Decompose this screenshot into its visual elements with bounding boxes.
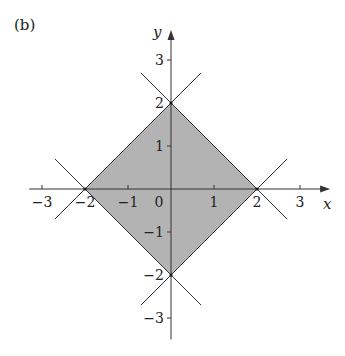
vertex-dot [169, 273, 172, 276]
x-tick-label: 2 [253, 194, 262, 210]
y-axis-label: y [152, 23, 162, 41]
panel-label: (b) [14, 16, 35, 34]
x-tick-label: −1 [118, 194, 139, 210]
x-tick-label: −3 [32, 194, 53, 210]
y-tick-label: −3 [143, 310, 164, 326]
x-tick-label: −2 [75, 194, 96, 210]
diamond-region-plot: (b) −3−113−22031−1−32−2 x y [0, 0, 345, 356]
x-axis-label: x [323, 195, 332, 213]
y-axis-arrow-icon [168, 30, 175, 40]
y-tick-label: 1 [155, 138, 164, 154]
x-axis-arrow-icon [320, 186, 330, 193]
y-tick-label: 3 [155, 52, 164, 68]
vertex-dot [169, 101, 172, 104]
vertex-dot [255, 187, 258, 190]
x-tick-label: 1 [210, 194, 219, 210]
y-tick-label: −1 [143, 224, 164, 240]
y-tick-label: −2 [143, 267, 164, 283]
x-tick-label: 3 [296, 194, 305, 210]
vertex-dot [83, 187, 86, 190]
origin-label: 0 [155, 194, 164, 210]
y-tick-label: 2 [155, 95, 164, 111]
